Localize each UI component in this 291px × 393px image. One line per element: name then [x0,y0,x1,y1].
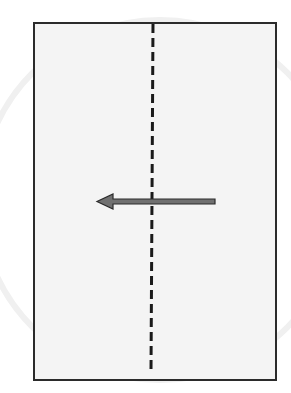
arrow-left-icon [97,194,215,209]
fold-line [151,24,153,372]
fold-diagram [0,0,291,393]
